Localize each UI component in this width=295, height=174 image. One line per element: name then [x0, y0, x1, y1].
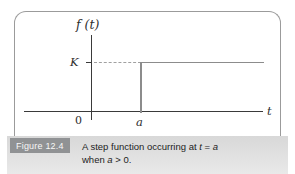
- k-tick-mark: [86, 62, 92, 63]
- caption-l1-var-a: a: [213, 141, 218, 152]
- x-axis-line: [24, 111, 263, 112]
- figure-caption-strip: Figure 12.4 A step function occurring at…: [7, 136, 288, 174]
- textbook-figure: f (t) K 0 a t Figure 12.4 A step functio…: [0, 0, 295, 174]
- k-tick-label: K: [70, 55, 79, 69]
- x-axis-label: t: [267, 104, 272, 118]
- k-dashed-guide-line: [94, 62, 141, 63]
- figure-number-badge: Figure 12.4: [10, 138, 70, 153]
- figure-caption-text: A step function occurring at t = a when …: [82, 140, 218, 166]
- caption-l2-pre: when: [82, 154, 107, 165]
- a-tick-label: a: [136, 115, 143, 129]
- caption-l2-post: > 0.: [113, 154, 132, 165]
- caption-line-2: when a > 0.: [82, 153, 218, 166]
- step-vertical-line: [140, 62, 142, 113]
- caption-l1-pre: A step function occurring at: [82, 141, 199, 152]
- origin-tick-label: 0: [75, 114, 82, 127]
- step-horizontal-line: [140, 62, 264, 64]
- y-axis-line: [91, 35, 92, 120]
- caption-l1-eq: =: [202, 141, 213, 152]
- caption-line-1: A step function occurring at t = a: [82, 140, 218, 153]
- y-axis-label: f (t): [76, 17, 99, 32]
- figure-plot-frame: f (t) K 0 a t: [14, 11, 281, 136]
